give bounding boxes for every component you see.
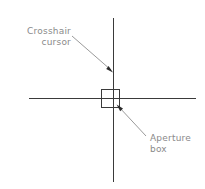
crosshair-leader-line: [72, 36, 111, 70]
crosshair-cursor-label-line2: cursor: [21, 37, 71, 48]
aperture-leader-line: [119, 107, 146, 136]
crosshair-cursor-label: Crosshair cursor: [21, 26, 71, 48]
crosshair-cursor-label-line1: Crosshair: [21, 26, 71, 37]
aperture-box-label-line2: box: [150, 144, 191, 155]
aperture-box-label: Aperture box: [150, 133, 191, 155]
aperture-box-label-line1: Aperture: [150, 133, 191, 144]
diagram-canvas: Crosshair cursor Aperture box: [0, 0, 205, 189]
